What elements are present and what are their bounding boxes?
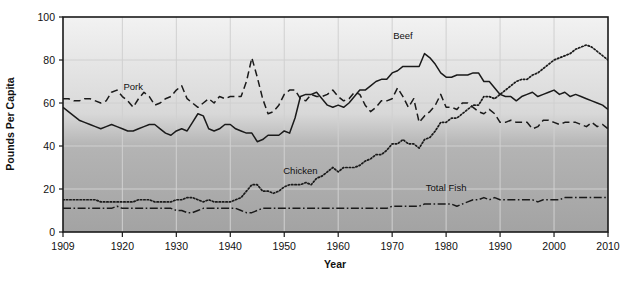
x-tick-label: 1940 <box>219 240 243 252</box>
x-tick-label: 1980 <box>434 240 458 252</box>
series-label-total-fish: Total Fish <box>426 182 467 193</box>
series-label-beef: Beef <box>393 30 413 41</box>
x-tick-label: 1950 <box>273 240 297 252</box>
y-tick-label: 20 <box>43 183 55 195</box>
x-tick-label: 2000 <box>542 240 566 252</box>
series-label-chicken: Chicken <box>283 165 317 176</box>
meat-consumption-line-chart: 020406080100 190919201930194019501960197… <box>0 0 634 284</box>
y-tick-label: 0 <box>49 226 55 238</box>
y-tick-label: 60 <box>43 97 55 109</box>
y-tick-label: 40 <box>43 140 55 152</box>
x-tick-label: 1920 <box>111 240 135 252</box>
x-tick-label: 1909 <box>51 240 75 252</box>
y-axis-title: Pounds Per Capita <box>4 77 16 171</box>
x-axis-title: Year <box>324 258 346 270</box>
x-tick-label: 1960 <box>327 240 351 252</box>
chart-figure: 020406080100 190919201930194019501960197… <box>0 0 634 284</box>
y-tick-label: 80 <box>43 54 55 66</box>
y-tick-label: 100 <box>37 11 55 23</box>
x-tick-label: 1990 <box>488 240 512 252</box>
x-tick-label: 2010 <box>596 240 620 252</box>
series-label-pork: Pork <box>123 81 143 92</box>
x-tick-label: 1970 <box>380 240 404 252</box>
x-tick-label: 1930 <box>165 240 189 252</box>
